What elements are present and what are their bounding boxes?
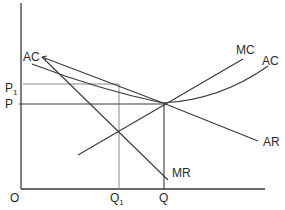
ar-label: AR	[263, 135, 280, 149]
ac-left-label: AC	[23, 50, 40, 64]
ac-right-label: AC	[262, 54, 279, 68]
mr-curve	[42, 57, 168, 180]
mc-curve	[78, 59, 243, 155]
p1-label: P1	[5, 81, 18, 97]
economics-diagram: AC MC AC AR MR P1 P O Q1 Q	[0, 0, 285, 210]
mr-label: MR	[172, 166, 191, 180]
q1-label: Q1	[110, 191, 124, 207]
mc-label: MC	[236, 43, 255, 57]
p-label: P	[5, 97, 13, 111]
origin-label: O	[10, 191, 19, 205]
diagram-canvas: AC MC AC AR MR P1 P O Q1 Q	[0, 0, 285, 210]
q-label: Q	[159, 191, 168, 205]
